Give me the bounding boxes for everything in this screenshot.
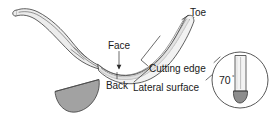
label-lateral-surface: Lateral surface (133, 82, 200, 93)
label-angle-value: 70 (219, 74, 231, 86)
blade-cross-section-half-disc (55, 80, 99, 113)
shank-body (16, 9, 104, 70)
cross-section-shape (55, 80, 99, 113)
label-face: Face (108, 40, 131, 51)
label-toe: Toe (190, 7, 207, 18)
instrument-shank (13, 9, 104, 70)
leader-face-arrowhead (117, 65, 122, 70)
label-back: Back (106, 80, 129, 91)
label-cutting-edge: Cutting edge (149, 63, 206, 74)
figure-canvas: Toe Face Back Cutting edge Lateral surfa… (0, 0, 271, 125)
dental-curette-anatomy-figure: Toe Face Back Cutting edge Lateral surfa… (0, 0, 271, 125)
